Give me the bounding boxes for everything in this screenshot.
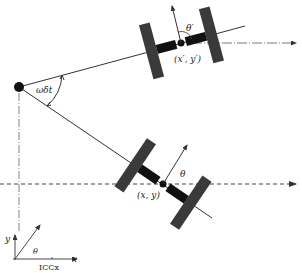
axle-left-before (137, 165, 160, 185)
label-pose-before: (x, y) (137, 190, 160, 200)
axle-right-before (165, 184, 188, 204)
axle-left-after (156, 40, 178, 54)
kinematics-diagram: ωδt θ′ (x′, y′) θ (x, y) y x θ ICCx (0, 0, 302, 273)
axle-right-after (185, 32, 208, 46)
label-axis-y: y (4, 234, 11, 244)
heading-arrow-after (172, 6, 181, 43)
label-omega-dt: ωδt (36, 85, 53, 95)
icc-point (14, 82, 24, 92)
label-icc-x: ICCx (39, 263, 59, 272)
label-theta-prime: θ′ (186, 23, 193, 33)
label-pose-after: (x′, y′) (174, 54, 201, 64)
label-axis-theta: θ (33, 247, 38, 256)
label-theta: θ (180, 169, 186, 179)
global-axes: y x θ ICCx (4, 225, 77, 272)
label-axis-x: x (72, 254, 77, 264)
